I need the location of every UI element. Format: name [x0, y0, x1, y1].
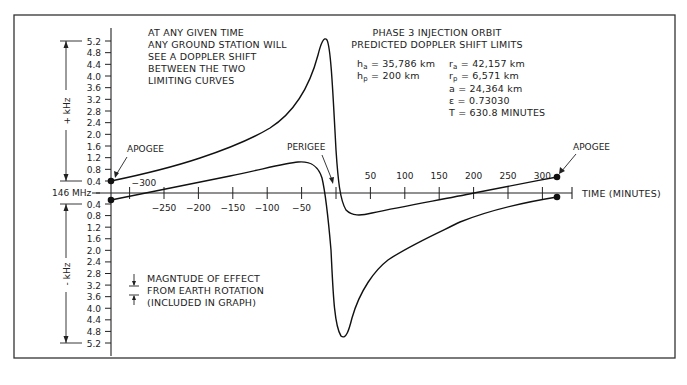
x-tick-label: −150: [220, 203, 245, 213]
svg-text:T = 630.8 MINUTES: T = 630.8 MINUTES: [448, 107, 545, 118]
y-tick-label: 2.0: [87, 246, 102, 256]
y-tick-label: 0.4: [87, 177, 102, 187]
y-tick-label: 4.4: [87, 315, 102, 325]
x-tick-label: −300: [132, 178, 157, 188]
y-tick-label: 0.4: [87, 200, 102, 210]
chart-subtitle: PREDICTED DOPPLER SHIFT LIMITS: [351, 39, 522, 50]
x-tick-label: −50: [292, 203, 311, 213]
x-tick-label: −200: [186, 203, 211, 213]
y-tick-label: 3.6: [87, 292, 102, 302]
y-tick-label: 1.6: [87, 142, 102, 152]
chart-frame: [14, 15, 675, 358]
y-tick-label: 2.8: [87, 107, 102, 117]
doppler-chart: 5.24.84.44.03.63.22.82.42.01.61.20.80.4 …: [0, 0, 687, 385]
svg-text:LIMITING CURVES: LIMITING CURVES: [148, 75, 234, 86]
y-tick-label: 5.2: [87, 37, 101, 47]
y-tick-label: 1.2: [87, 223, 101, 233]
svg-text:hp = 200 km: hp = 200 km: [357, 70, 420, 83]
apogee-label-right: APOGEE: [573, 142, 610, 152]
arrow-icon: [329, 177, 334, 184]
orbit-parameters: ha = 35,786 km hp = 200 km ra = 42,157 k…: [357, 58, 545, 118]
apogee-dot-lower-left: [108, 197, 115, 204]
y-tick-label: 4.8: [87, 327, 102, 337]
y-tick-label: 1.2: [87, 153, 101, 163]
y-ticks-positive: 5.24.84.44.03.63.22.82.42.01.61.20.80.4: [87, 37, 111, 187]
apogee-dot-upper-right: [554, 174, 561, 181]
arrow-up-icon: [64, 204, 69, 211]
apogee-dot-lower-right: [554, 194, 561, 201]
y-tick-label: 0.8: [87, 211, 102, 221]
y-tick-label: 2.8: [87, 269, 102, 279]
svg-text:ε = 0.73030: ε = 0.73030: [449, 95, 510, 106]
svg-text:rp = 6,571 km: rp = 6,571 km: [449, 70, 519, 83]
y-ticks-negative: 0.40.81.21.62.02.42.83.23.64.04.44.85.2: [87, 200, 111, 349]
y-tick-label: 4.0: [87, 72, 102, 82]
x-tick-label: 200: [465, 171, 482, 181]
y-tick-label: 4.0: [87, 304, 102, 314]
svg-text:(INCLUDED IN GRAPH): (INCLUDED IN GRAPH): [147, 297, 256, 308]
svg-text:ANY GROUND STATION WILL: ANY GROUND STATION WILL: [148, 39, 287, 50]
arrow-down-icon: [132, 281, 136, 286]
y-tick-label: 3.2: [87, 95, 101, 105]
chart-title: PHASE 3 INJECTION ORBIT: [373, 27, 502, 38]
y-tick-label: 2.4: [87, 118, 102, 128]
lower-limit-curve: [111, 162, 557, 337]
x-tick-label: 150: [431, 171, 448, 181]
apogee-label-left: APOGEE: [127, 144, 164, 154]
svg-text:FROM EARTH ROTATION: FROM EARTH ROTATION: [147, 285, 264, 296]
y-tick-label: 4.8: [87, 48, 102, 58]
arrow-down-icon: [64, 174, 69, 181]
y-tick-label: 0.8: [87, 165, 102, 175]
y-tick-label: 3.2: [87, 281, 101, 291]
note-text: AT ANY GIVEN TIME ANY GROUND STATION WIL…: [148, 27, 287, 86]
svg-text:BETWEEN THE TWO: BETWEEN THE TWO: [148, 63, 246, 74]
y-tick-label: 2.4: [87, 257, 102, 267]
x-tick-label: −250: [152, 203, 177, 213]
svg-text:a = 24,364 km: a = 24,364 km: [449, 83, 522, 94]
svg-text:SEE A DOPPLER SHIFT: SEE A DOPPLER SHIFT: [148, 51, 257, 62]
x-tick-label: 50: [365, 171, 377, 181]
x-tick-label: 100: [396, 171, 413, 181]
y-tick-label: 3.6: [87, 83, 102, 93]
svg-text:MAGNTUDE OF EFFECT: MAGNTUDE OF EFFECT: [147, 273, 260, 284]
y-tick-label: 1.6: [87, 234, 102, 244]
center-frequency-label: 146 MHz: [52, 188, 92, 198]
earth-rotation-legend: MAGNTUDE OF EFFECT FROM EARTH ROTATION (…: [129, 273, 264, 308]
x-axis-label: TIME (MINUTES): [581, 188, 661, 199]
y-label-negative: - kHz: [62, 262, 72, 285]
y-label-positive: + kHz: [62, 97, 72, 124]
perigee-label: PERIGEE: [287, 142, 326, 152]
arrow-down-icon: [64, 336, 69, 343]
y-tick-label: 2.0: [87, 130, 102, 140]
apogee-dot-upper-left: [108, 178, 115, 185]
arrow-up-icon: [64, 41, 69, 48]
y-tick-label: 5.2: [87, 339, 101, 349]
svg-text:AT ANY GIVEN TIME: AT ANY GIVEN TIME: [148, 27, 244, 38]
x-tick-label: −100: [255, 203, 280, 213]
x-tick-label: 250: [499, 171, 516, 181]
y-tick-label: 4.4: [87, 60, 102, 70]
